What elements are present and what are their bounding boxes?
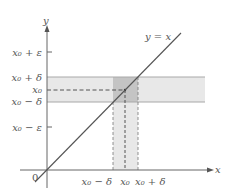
y-tick-label-x0-plus-delta: x₀ + δ [12, 72, 42, 83]
y-tick-label-x0-minus-epsilon: x₀ − ε [12, 122, 42, 133]
y-tick-label-x0-plus-epsilon: x₀ + ε [12, 47, 42, 58]
y-axis-arrow-icon [45, 25, 50, 32]
x-tick-label-x0-minus-delta: x₀ − δ [82, 176, 112, 187]
line-label: y = x [144, 31, 171, 42]
y-tick-label-x0-minus-delta: x₀ − δ [12, 96, 42, 107]
x-axis-arrow-icon [207, 168, 214, 173]
origin-label: 0 [32, 172, 38, 183]
y-tick-label-x0: x₀ [32, 84, 42, 95]
identity-line [35, 33, 181, 182]
x-axis-label: x [215, 164, 221, 175]
x-tick-label-x0-plus-delta: x₀ + δ [135, 176, 165, 187]
x-tick-label-x0: x₀ [120, 176, 130, 187]
epsilon-delta-diagram: y x 0 y = x x₀ + ε x₀ + δ x₀ x₀ − δ x₀ −… [0, 0, 226, 195]
y-axis-label: y [42, 15, 49, 26]
